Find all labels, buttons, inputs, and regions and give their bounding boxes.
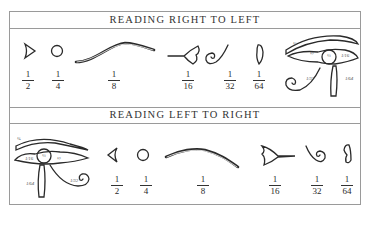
- numerator: 1: [268, 175, 282, 184]
- denominator: 8: [107, 82, 121, 91]
- full-eye-of-horus-icon-left: [15, 139, 89, 197]
- fraction-one-quarter: 14: [139, 175, 153, 196]
- svg-text:½: ½: [57, 156, 61, 161]
- eyebrow-curve-inner: [77, 44, 153, 62]
- eye-corner-triangle-icon: [25, 44, 35, 58]
- denominator: 4: [51, 82, 65, 91]
- svg-text:¼: ¼: [42, 153, 46, 158]
- svg-text:1⁄64: 1⁄64: [26, 181, 35, 186]
- numerator: 1: [252, 70, 266, 79]
- denominator: 2: [110, 187, 124, 196]
- fraction-one-eighth: 18: [196, 175, 210, 196]
- numerator: 1: [196, 175, 210, 184]
- svg-text:½: ½: [310, 51, 314, 56]
- eye-corner-teardrop-icon: [168, 46, 199, 64]
- vertical-stroke-icon: [344, 145, 351, 163]
- fraction-one-eighth: 18: [107, 70, 121, 91]
- spiral-curl-icon: [306, 146, 325, 162]
- denominator: 64: [252, 82, 266, 91]
- eyebrow-curve-icon: [166, 149, 238, 167]
- fraction-one-half: 12: [110, 175, 124, 196]
- svg-text:1⁄16: 1⁄16: [341, 53, 350, 58]
- fraction-one-sixty-fourth: 164: [252, 70, 266, 91]
- numerator: 1: [340, 175, 354, 184]
- eye-corner-triangle-icon: [108, 148, 117, 162]
- numerator: 1: [51, 70, 65, 79]
- numerator: 1: [139, 175, 153, 184]
- fraction-one-quarter: 14: [51, 70, 65, 91]
- numerator: 1: [310, 175, 324, 184]
- fraction-one-half: 12: [21, 70, 35, 91]
- numerator: 1: [223, 70, 237, 79]
- denominator: 8: [196, 187, 210, 196]
- vertical-stroke-icon: [257, 45, 263, 64]
- svg-text:⅛: ⅛: [17, 136, 21, 141]
- numerator: 1: [110, 175, 124, 184]
- fraction-one-thirty-second: 132: [223, 70, 237, 91]
- denominator: 32: [310, 187, 324, 196]
- fraction-one-sixteenth: 116: [268, 175, 282, 196]
- fraction-one-sixty-fourth: 164: [340, 175, 354, 196]
- denominator: 16: [181, 82, 195, 91]
- denominator: 2: [21, 82, 35, 91]
- numerator: 1: [181, 70, 195, 79]
- spiral-curl-icon: [206, 45, 228, 64]
- svg-text:1⁄32: 1⁄32: [306, 76, 315, 81]
- denominator: 4: [139, 187, 153, 196]
- svg-text:¼: ¼: [327, 53, 331, 58]
- eye-corner-teardrop-icon: [262, 146, 295, 165]
- numerator: 1: [107, 70, 121, 79]
- denominator: 64: [340, 187, 354, 196]
- numerator: 1: [21, 70, 35, 79]
- svg-text:1⁄64: 1⁄64: [345, 76, 354, 81]
- fraction-one-thirty-second: 132: [310, 175, 324, 196]
- fraction-one-sixteenth: 116: [181, 70, 195, 91]
- pupil-circle-icon: [138, 150, 149, 161]
- svg-text:⅛: ⅛: [293, 41, 297, 46]
- svg-text:1⁄16: 1⁄16: [25, 156, 34, 161]
- svg-text:1⁄32: 1⁄32: [70, 178, 79, 183]
- pupil-circle-icon: [52, 46, 63, 57]
- denominator: 32: [223, 82, 237, 91]
- denominator: 16: [268, 187, 282, 196]
